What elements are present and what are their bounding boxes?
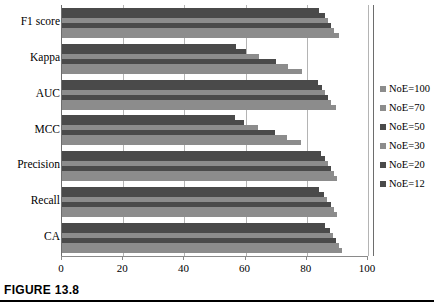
bar (62, 69, 302, 74)
legend-swatch-icon (380, 143, 386, 149)
x-axis-tick (245, 256, 246, 260)
x-axis-line (61, 256, 368, 257)
bar (62, 105, 336, 110)
figure-caption: FIGURE 13.8 (4, 283, 79, 297)
bar-group (62, 220, 368, 256)
legend-swatch-icon (380, 181, 386, 187)
bar (62, 248, 342, 253)
legend-label: NoE=70 (389, 102, 425, 113)
legend-item[interactable]: NoE=50 (380, 121, 425, 132)
legend-label: NoE=50 (389, 121, 425, 132)
legend-label: NoE=100 (389, 83, 430, 94)
bar-group (62, 184, 368, 220)
y-axis-category-label: CA (44, 230, 60, 242)
bar-group (62, 5, 368, 41)
x-axis-tick (367, 256, 368, 260)
gridline (368, 5, 369, 256)
x-axis-tick-label: 80 (286, 262, 326, 274)
bar (62, 140, 301, 145)
figure-container: 020406080100F1 scoreKappaAUCMCCPrecision… (0, 0, 434, 307)
x-axis-tick-label: 0 (41, 262, 81, 274)
x-axis-tick-label: 60 (225, 262, 265, 274)
x-axis-tick-label: 40 (163, 262, 203, 274)
bar (62, 33, 339, 38)
bar-group (62, 77, 368, 113)
legend-label: NoE=12 (389, 178, 425, 189)
y-axis-category-label: AUC (36, 87, 60, 99)
legend-swatch-icon (380, 162, 386, 168)
x-axis-tick (61, 256, 62, 260)
y-axis-category-label: Precision (17, 158, 60, 170)
legend-item[interactable]: NoE=30 (380, 140, 425, 151)
legend-item[interactable]: NoE=70 (380, 102, 425, 113)
x-axis-tick (183, 256, 184, 260)
bar-group (62, 41, 368, 77)
bar (62, 212, 337, 217)
bar (62, 176, 337, 181)
y-axis-category-label: MCC (34, 123, 60, 135)
legend-swatch-icon (380, 105, 386, 111)
chart-legend: NoE=100NoE=70NoE=50NoE=30NoE=20NoE=12 (373, 5, 434, 256)
legend-label: NoE=20 (389, 159, 425, 170)
x-axis-tick-label: 100 (347, 262, 387, 274)
x-axis-tick (122, 256, 123, 260)
caption-divider (0, 300, 434, 302)
y-axis-category-label: Kappa (30, 51, 60, 63)
legend-item[interactable]: NoE=100 (380, 83, 430, 94)
legend-item[interactable]: NoE=12 (380, 178, 425, 189)
legend-swatch-icon (380, 124, 386, 130)
y-axis-category-label: Recall (31, 194, 60, 206)
bar-group (62, 113, 368, 149)
x-axis-tick-label: 20 (102, 262, 142, 274)
legend-label: NoE=30 (389, 140, 425, 151)
chart-plot-area (61, 5, 368, 256)
bar-group (62, 148, 368, 184)
legend-item[interactable]: NoE=20 (380, 159, 425, 170)
y-axis-category-label: F1 score (21, 15, 60, 27)
x-axis-tick (306, 256, 307, 260)
legend-swatch-icon (380, 86, 386, 92)
